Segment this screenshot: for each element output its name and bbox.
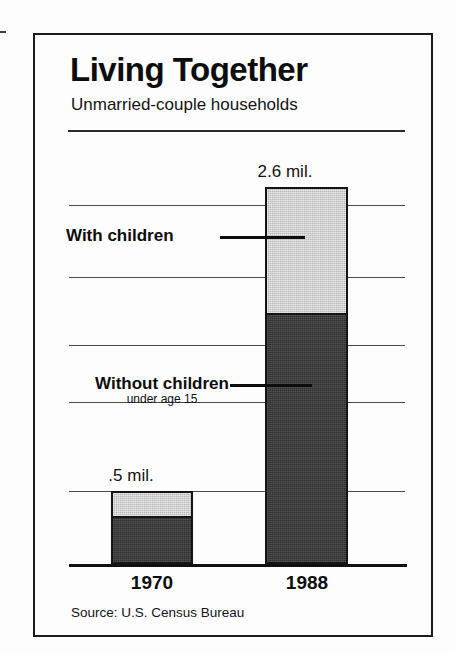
leader-line-with-children (220, 236, 305, 239)
bar-segment-without-children-1970 (113, 518, 191, 562)
x-axis-label-1988: 1988 (247, 572, 367, 594)
source-note: Source: U.S. Census Bureau (71, 605, 244, 620)
leader-line-without-children (230, 384, 312, 387)
x-axis-label-1970: 1970 (92, 572, 212, 594)
bar-1988[interactable] (265, 187, 348, 564)
bar-1970[interactable] (111, 491, 193, 564)
bar-segment-with-children-1988 (267, 189, 346, 315)
bar-value-label-1988: 2.6 mil. (225, 162, 345, 182)
bar-segment-with-children-1970 (113, 493, 191, 518)
annotation-with-children: With children (66, 227, 174, 245)
gridline (69, 205, 405, 206)
chart-frame: Living Together Unmarried-couple househo… (33, 33, 433, 637)
bar-segment-without-children-1988 (267, 315, 346, 562)
axis-baseline (69, 564, 407, 567)
infographic-page: Living Together Unmarried-couple househo… (0, 0, 455, 654)
annotation-without-children-sublabel: under age 15 (57, 393, 267, 406)
crop-mark (0, 31, 6, 33)
plot-area: .5 mil. 2.6 mil. 1970 1988 With children (35, 35, 435, 639)
gridline (69, 345, 405, 346)
bar-value-label-1970: .5 mil. (71, 466, 191, 486)
gridline (69, 277, 405, 278)
annotation-with-children-label: With children (66, 227, 174, 245)
annotation-without-children: Without children under age 15 (57, 375, 267, 406)
